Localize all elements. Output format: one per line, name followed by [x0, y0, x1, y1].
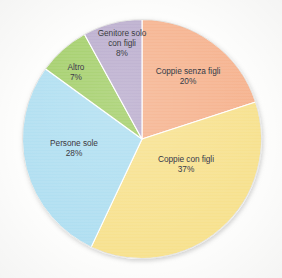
- slice-label-name: Persone sole: [30, 138, 118, 148]
- slice-label-name: Altro: [48, 62, 104, 72]
- slice-label-value: 37%: [140, 164, 232, 174]
- slice-label-name: Coppie senza figli: [140, 66, 236, 76]
- slice-label-name: Coppie con figli: [140, 154, 232, 164]
- slice-label-persone-sole: Persone sole 28%: [30, 138, 118, 158]
- slice-label-value: 8%: [80, 48, 164, 58]
- slice-label-genitore-solo-con-figli: Genitore solo con figli 8%: [80, 28, 164, 59]
- slice-label-altro: Altro 7%: [48, 62, 104, 82]
- pie-chart-figure: Coppie senza figli 20% Coppie con figli …: [0, 0, 282, 278]
- slice-label-coppie-con-figli: Coppie con figli 37%: [140, 154, 232, 174]
- slice-label-value: 28%: [30, 148, 118, 158]
- slice-label-coppie-senza-figli: Coppie senza figli 20%: [140, 66, 236, 86]
- slice-label-value: 20%: [140, 76, 236, 86]
- slice-label-name-line1: Genitore solo: [80, 28, 164, 38]
- slice-label-value: 7%: [48, 72, 104, 82]
- slice-label-name-line2: con figli: [80, 38, 164, 48]
